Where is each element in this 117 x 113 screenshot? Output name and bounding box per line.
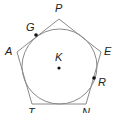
- label-A: A: [4, 45, 12, 57]
- label-K: K: [55, 51, 63, 63]
- point-K: [57, 66, 60, 69]
- pentagon-diagram: P E N T A K G R: [0, 0, 117, 113]
- label-N: N: [82, 106, 90, 113]
- label-G: G: [26, 21, 35, 33]
- label-T: T: [28, 106, 36, 113]
- label-R: R: [98, 76, 106, 88]
- label-E: E: [104, 45, 112, 57]
- label-P: P: [55, 2, 63, 14]
- point-G: [34, 33, 38, 37]
- point-R: [92, 76, 96, 80]
